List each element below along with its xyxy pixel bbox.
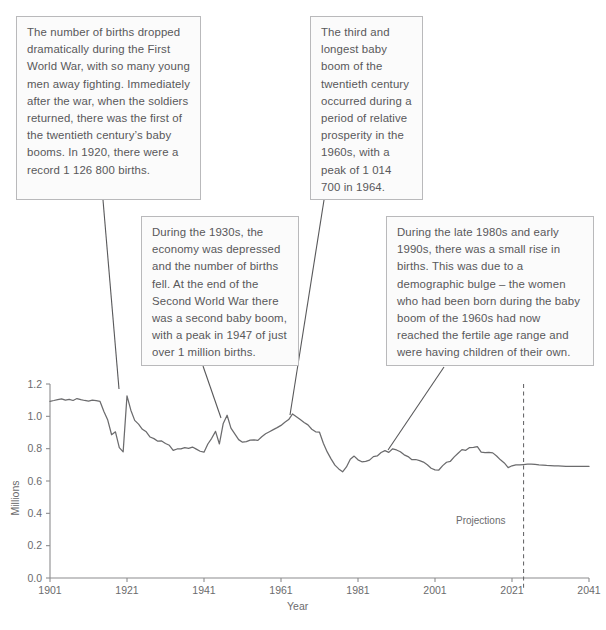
x-tick-label: 2021 — [500, 584, 524, 596]
births-line — [50, 396, 589, 472]
y-tick-label: 0.4 — [27, 507, 42, 519]
y-axis-title: Millions — [9, 465, 21, 531]
x-tick-label: 1921 — [115, 584, 139, 596]
x-tick-label: 1981 — [346, 584, 370, 596]
x-tick-label: 1941 — [192, 584, 216, 596]
annotation-note-1930s: During the 1930s, the economy was depres… — [141, 216, 299, 366]
chart-figure: 0.00.20.40.60.81.01.2 190119211941196119… — [0, 0, 606, 630]
y-tick-label: 1.2 — [27, 378, 42, 390]
x-tick-label: 2041 — [577, 584, 601, 596]
leader-line-1 — [103, 200, 119, 389]
leader-line-2 — [203, 366, 221, 418]
axes: 0.00.20.40.60.81.01.2 190119211941196119… — [27, 378, 600, 596]
annotation-note-1980s: During the late 1980s and early 1990s, t… — [386, 216, 594, 366]
annotation-note-1960s: The third and longest baby boom of the t… — [310, 16, 423, 200]
projections-label: Projections — [456, 515, 505, 526]
annotation-note-wwi: The number of births dropped dramaticall… — [16, 16, 201, 200]
y-tick-label: 0.0 — [27, 572, 42, 584]
x-axis-ticks: 19011921194119611981200120212041 — [38, 578, 601, 596]
y-tick-label: 0.8 — [27, 442, 42, 454]
x-axis-title: Year — [287, 600, 308, 612]
leader-line-4 — [388, 367, 444, 450]
x-tick-label: 2001 — [423, 584, 447, 596]
y-tick-label: 0.2 — [27, 539, 42, 551]
y-tick-label: 0.6 — [27, 475, 42, 487]
y-tick-label: 1.0 — [27, 410, 42, 422]
x-tick-label: 1901 — [38, 584, 62, 596]
y-axis-ticks: 0.00.20.40.60.81.01.2 — [27, 378, 50, 584]
x-tick-label: 1961 — [269, 584, 293, 596]
